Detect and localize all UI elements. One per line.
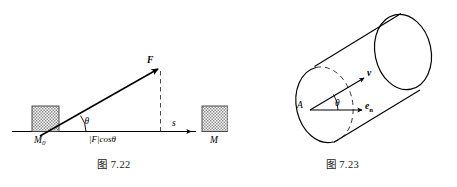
label-force: F bbox=[146, 55, 154, 65]
figure-sheet: F θ M0 M |F|cosθ s 图 7.22 bbox=[0, 0, 457, 187]
label-displacement: s bbox=[172, 118, 176, 128]
label-angle-theta: θ bbox=[335, 98, 340, 108]
block-end bbox=[202, 106, 228, 132]
figure-work-of-force: F θ M0 M |F|cosθ s 图 7.22 bbox=[0, 0, 228, 187]
label-block-start: M0 bbox=[33, 135, 46, 148]
label-horizontal-component: |F|cosθ bbox=[89, 134, 116, 144]
label-angle-theta: θ bbox=[85, 116, 90, 126]
force-vector-arrow bbox=[40, 69, 158, 136]
label-normal-vector: en bbox=[365, 101, 373, 113]
label-block-end: M bbox=[209, 135, 219, 145]
label-velocity-vector: v bbox=[367, 68, 372, 78]
label-point-a: A bbox=[296, 100, 303, 110]
cylinder-top-edge bbox=[315, 14, 402, 67]
caption-figure-7-22: 图 7.22 bbox=[0, 156, 228, 171]
cylinder-far-end-ellipse bbox=[368, 9, 439, 95]
cylinder-bottom-edge bbox=[334, 90, 421, 143]
caption-figure-7-23: 图 7.23 bbox=[228, 156, 457, 171]
figure-cylinder-flux: A θ v en 图 7.23 bbox=[228, 0, 457, 187]
